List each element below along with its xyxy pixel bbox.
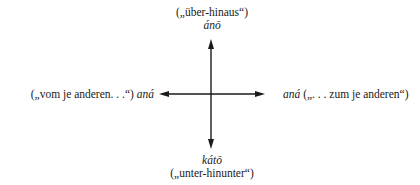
arrowhead-down-icon [208, 139, 214, 149]
left-greek-term: aná [137, 88, 154, 100]
right-greek-term: aná [283, 88, 300, 100]
right-gloss-label: („. . . zum je anderen“) [303, 88, 408, 100]
horizontal-double-arrow [159, 91, 265, 97]
top-gloss-label: („über-hinaus“) [176, 6, 248, 19]
bottom-greek-term: kátō [202, 154, 222, 167]
arrowhead-right-icon [255, 91, 265, 97]
right-label-group: aná („. . . zum je anderen“) [283, 88, 408, 101]
bottom-gloss-label: („unter-hinunter“) [170, 167, 253, 180]
left-label-group: („vom je anderen. . .“) aná [31, 88, 154, 101]
top-greek-term: ánō [203, 19, 220, 32]
arrowhead-left-icon [159, 91, 169, 97]
left-gloss-label: („vom je anderen. . .“) [31, 88, 134, 100]
arrowhead-up-icon [208, 39, 214, 49]
